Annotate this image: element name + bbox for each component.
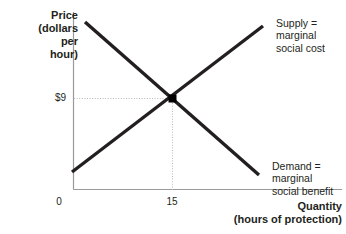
axis-origin-label: 0 (50, 196, 68, 208)
x-axis-title: Quantity(hours of protection) (234, 200, 342, 226)
y-axis-title: Price(dollarsperhour) (38, 9, 78, 61)
y-axis-tick-label-9: $9 (36, 92, 66, 104)
supply-label-line-3: social cost (276, 42, 325, 54)
demand-label-line-2: marginal (272, 172, 312, 184)
y-axis-title-line-3: per (61, 35, 78, 47)
x-axis-tick-label-15: 15 (158, 196, 186, 208)
x-axis-title-sub: (hours of protection) (234, 213, 342, 225)
supply-label-line-2: marginal (276, 29, 316, 41)
y-axis-title-line-2: (dollars (38, 22, 78, 34)
y-axis-title-line-4: hour) (50, 48, 78, 60)
demand-curve-label: Demand =marginalsocial benefit (272, 160, 333, 197)
demand-label-line-3: social benefit (272, 185, 333, 197)
supply-label-line-1: Supply = (276, 17, 317, 29)
equilibrium-point-marker (169, 95, 177, 103)
supply-curve-label: Supply =marginalsocial cost (276, 17, 325, 54)
demand-label-line-1: Demand = (272, 160, 321, 172)
y-axis-title-line-1: Price (51, 9, 78, 21)
x-axis-title-main: Quantity (297, 200, 342, 212)
chart-figure: Price(dollarsperhour) $9 0 15 Quantity(h… (0, 0, 346, 234)
